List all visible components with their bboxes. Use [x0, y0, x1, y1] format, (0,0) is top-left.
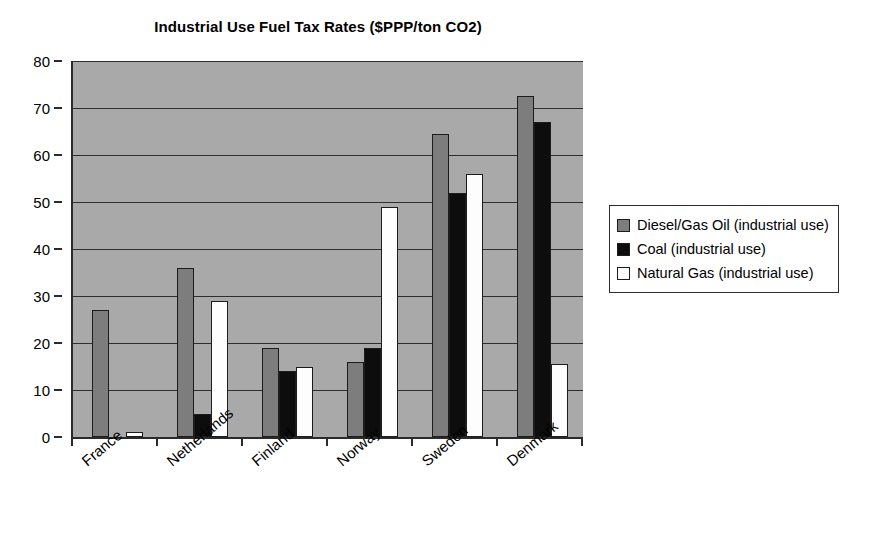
y-tick-label: 40 [33, 242, 50, 257]
y-axis: 01020304050607080 [0, 61, 62, 437]
bar [92, 310, 109, 437]
y-tick-label: 20 [33, 336, 50, 351]
y-tick-label: 10 [33, 383, 50, 398]
legend-label: Natural Gas (industrial use) [637, 266, 814, 281]
y-tick-mark [54, 201, 62, 203]
bar [449, 193, 466, 437]
legend-item: Diesel/Gas Oil (industrial use) [617, 213, 829, 237]
y-tick-mark [54, 389, 62, 391]
bar [177, 268, 194, 437]
bar [466, 174, 483, 437]
legend-label: Diesel/Gas Oil (industrial use) [637, 218, 829, 233]
bar-chart: Industrial Use Fuel Tax Rates ($PPP/ton … [0, 0, 882, 553]
y-tick-mark [54, 342, 62, 344]
y-tick-mark [54, 295, 62, 297]
y-tick-label: 30 [33, 289, 50, 304]
chart-title: Industrial Use Fuel Tax Rates ($PPP/ton … [48, 18, 588, 35]
bar [347, 362, 364, 437]
bar [296, 367, 313, 438]
bar [432, 134, 449, 437]
legend-swatch-icon [617, 219, 630, 232]
bar [381, 207, 398, 437]
y-tick-label: 50 [33, 195, 50, 210]
y-tick-label: 80 [33, 54, 50, 69]
y-tick-mark [54, 248, 62, 250]
bar [262, 348, 279, 437]
legend-swatch-icon [617, 243, 630, 256]
y-tick-mark [54, 107, 62, 109]
y-tick-mark [54, 154, 62, 156]
y-tick-label: 60 [33, 148, 50, 163]
y-tick-label: 70 [33, 101, 50, 116]
bar [517, 96, 534, 437]
bars-layer [73, 61, 583, 437]
y-tick-mark [54, 60, 62, 62]
legend-item: Coal (industrial use) [617, 237, 829, 261]
x-axis-labels: FranceNetherlandsFinlandNorwaySwedenDenm… [0, 437, 620, 547]
plot-area [71, 61, 583, 439]
chart-legend: Diesel/Gas Oil (industrial use)Coal (ind… [609, 205, 839, 293]
legend-label: Coal (industrial use) [637, 242, 766, 257]
bar [534, 122, 551, 437]
legend-item: Natural Gas (industrial use) [617, 261, 829, 285]
legend-swatch-icon [617, 267, 630, 280]
